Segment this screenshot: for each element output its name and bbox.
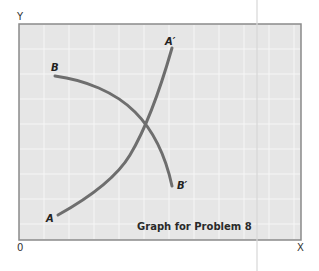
label-B-prime: B′ bbox=[177, 180, 188, 191]
plot-area bbox=[19, 24, 301, 240]
x-axis-label: X bbox=[297, 242, 304, 253]
label-B: B bbox=[51, 62, 59, 73]
label-A: A bbox=[45, 213, 54, 224]
problem-8-graph: B A′ B′ A Graph for Problem 8 Y X 0 bbox=[0, 0, 319, 271]
graph-caption: Graph for Problem 8 bbox=[137, 221, 252, 232]
y-axis-label: Y bbox=[16, 11, 24, 22]
label-A-prime: A′ bbox=[164, 36, 176, 47]
origin-label: 0 bbox=[17, 242, 23, 253]
